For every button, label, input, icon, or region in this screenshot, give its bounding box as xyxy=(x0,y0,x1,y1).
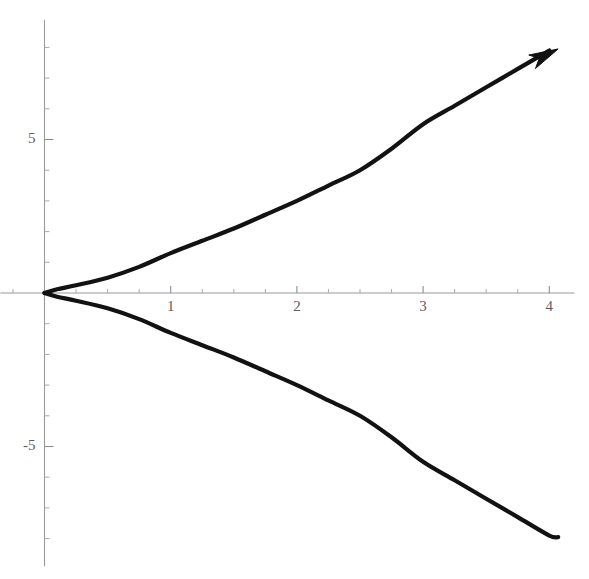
upper-branch-curve xyxy=(45,50,550,293)
x-tick-label: 1 xyxy=(167,298,175,314)
plot-figure: 12345-5 xyxy=(0,0,589,579)
x-tick-label: 2 xyxy=(293,298,301,314)
plot-canvas: 12345-5 xyxy=(0,0,589,579)
x-tick-label: 3 xyxy=(419,298,427,314)
x-tick-label: 4 xyxy=(546,298,554,314)
x-axis-ticks xyxy=(13,286,549,293)
tick-labels-group: 12345-5 xyxy=(23,130,554,453)
lower-branch-curve xyxy=(45,293,559,537)
y-tick-label: 5 xyxy=(28,130,36,146)
axes-group xyxy=(0,20,574,566)
y-tick-label: -5 xyxy=(23,437,36,453)
